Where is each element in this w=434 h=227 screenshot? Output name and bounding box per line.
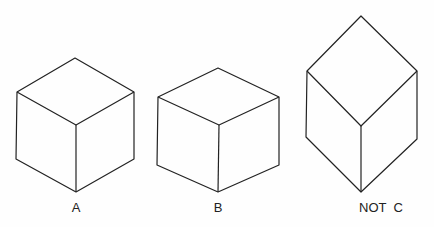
- shape-c: [306, 16, 417, 192]
- cube-a: [16, 58, 134, 192]
- cube-drawings: [0, 0, 434, 227]
- label-not-c: NOT C: [359, 200, 403, 215]
- cube-b: [157, 68, 279, 192]
- label-b: B: [214, 200, 223, 215]
- cube-figure: A B NOT C: [0, 0, 434, 227]
- label-a: A: [72, 200, 81, 215]
